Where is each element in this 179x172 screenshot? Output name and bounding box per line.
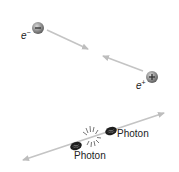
electron-motion-arrow: [47, 30, 88, 49]
photon-right-icon: [104, 125, 118, 137]
positron-label: e+: [136, 79, 146, 91]
photon-right-label: Photon: [117, 128, 149, 139]
positron-charge: +: [142, 79, 146, 86]
minus-sign-icon: [35, 27, 41, 28]
electron-label: e−: [21, 29, 31, 41]
annihilation-diagram: [0, 0, 179, 172]
electron-charge: −: [27, 29, 31, 36]
positron-motion-arrow: [103, 56, 143, 71]
positron-icon: [146, 71, 158, 83]
photon-left-label: Photon: [74, 150, 106, 161]
electron-icon: [32, 22, 44, 34]
